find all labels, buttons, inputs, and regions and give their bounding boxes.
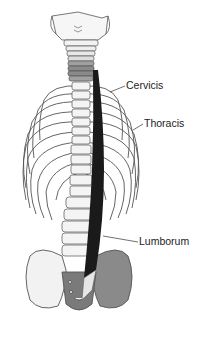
label-cervicis: Cervicis (126, 80, 163, 91)
label-thoracis: Thoracis (144, 118, 184, 129)
pelvis (26, 250, 132, 310)
leader-lines (103, 86, 143, 242)
spine-anatomy-illustration (0, 0, 201, 337)
cervical-vertebrae (64, 40, 98, 81)
skull-base (51, 12, 110, 40)
label-lumborum: Lumborum (139, 236, 189, 247)
